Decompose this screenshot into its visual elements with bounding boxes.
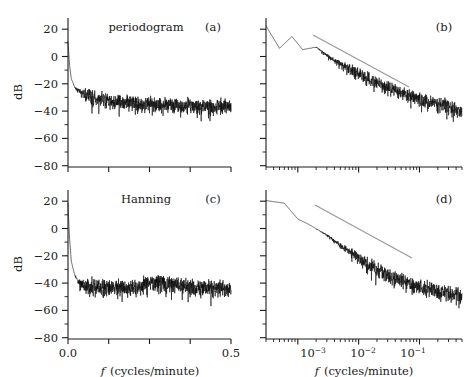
panel-a-ytick-minus20: −20 [34,77,58,91]
x-axis-label-right: f(cycles/minute) [314,364,414,377]
panel-d-reference-slope-line [315,205,412,258]
panel-a-label: (a) [205,20,221,34]
panel-c-spectrum [68,203,231,306]
y-axis-label-left-bottom: dB [11,256,25,272]
panel-d-xtick-1e-2: 10−2 [350,346,376,360]
y-axis-label-left-top: dB [11,84,25,100]
panel-c-label: (c) [205,192,220,206]
x-axis-label-right-symbol: f [314,364,321,377]
panel-c-ytick-20: 20 [43,194,58,208]
panel-c-ytick-minus80: −80 [34,331,58,345]
panel-b-x-ticks [266,167,462,173]
panel-d-spectrum [266,201,462,309]
panel-c-title: Hanning [121,192,172,206]
panel-b-label: (b) [436,20,452,34]
panel-b-reference-slope-line [313,35,409,87]
panel-c-ytick-0: 0 [51,222,58,236]
panel-c-ytick-minus60: −60 [34,303,58,317]
panel-d-xtick-1e-2-exponent: −2 [365,346,376,355]
panel-c-ytick-minus20: −20 [34,249,58,263]
panel-b-y-ticks [260,29,266,166]
panel-a-x-ticks [68,167,231,172]
panel-c-xtick-0: 0.0 [59,346,77,360]
panel-a: 20 0 −20 −40 −60 −80 periodogram (a) [34,18,231,173]
panel-a-title: periodogram [108,20,183,34]
panel-a-ytick-0: 0 [51,50,58,64]
panel-c-x-ticks [68,339,231,344]
x-axis-label-right-units: (cycles/minute) [324,364,413,377]
panel-a-ytick-minus80: −80 [34,159,58,173]
panel-d-xtick-1e-1: 10−1 [400,346,426,360]
panel-c-xtick-half: 0.5 [222,346,240,360]
panel-c: 20 0 −20 −40 −60 −80 0.0 0.5 Hanning (c) [34,190,240,360]
panel-a-y-ticks [62,29,68,166]
panel-d-label: (d) [436,192,452,206]
panel-a-ytick-20: 20 [43,22,58,36]
panel-d-xtick-1e-3-exponent: −3 [315,346,326,355]
panel-c-ytick-minus40: −40 [34,276,58,290]
x-axis-label-left: f(cycles/minute) [100,364,200,377]
spectral-density-figure: 20 0 −20 −40 −60 −80 periodogram (a) [0,0,470,377]
panel-d-xtick-1e-1-exponent: −1 [415,346,426,355]
panel-d-x-ticks [266,339,462,345]
panel-a-ytick-minus40: −40 [34,104,58,118]
panel-a-ytick-minus60: −60 [34,131,58,145]
panel-b-spectrum [266,26,462,122]
x-axis-label-left-symbol: f [100,364,107,377]
figure-canvas: 20 0 −20 −40 −60 −80 periodogram (a) [0,0,470,377]
panel-d: 10−3 10−2 10−1 (d) [260,190,462,360]
panel-d-y-ticks [260,201,266,338]
panel-a-spectrum [68,42,231,122]
panel-d-xtick-1e-3: 10−3 [300,346,326,360]
x-axis-label-left-units: (cycles/minute) [110,364,199,377]
panel-c-y-ticks [62,201,68,338]
panel-b: (b) [260,18,462,173]
